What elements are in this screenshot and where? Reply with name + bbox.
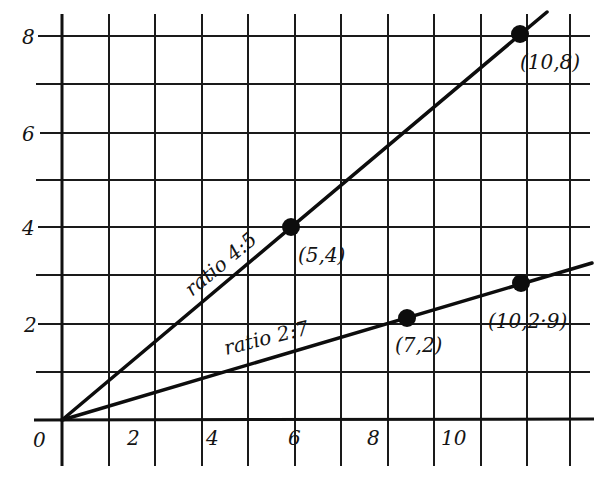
- point-label-10-2-9: (10,2·9): [488, 309, 567, 333]
- ratio-line-chart: 0 2 4 6 8 10 8 6 4 2 ratio 4:5 ratio 2:7…: [0, 0, 602, 477]
- x-tick-10: 10: [441, 426, 467, 450]
- x-tick-6: 6: [288, 426, 301, 450]
- point-label-10-8: (10,8): [520, 50, 580, 74]
- origin-label: 0: [33, 428, 46, 452]
- line-ratio-2-7: [62, 263, 592, 420]
- point-10-2-9: [512, 274, 530, 292]
- x-tick-8: 8: [367, 426, 380, 450]
- y-tick-2: 2: [23, 313, 37, 337]
- point-label-5-4: (5,4): [298, 243, 345, 267]
- point-10-8: [511, 25, 529, 43]
- x-axis: [34, 419, 594, 420]
- x-tick-2: 2: [126, 426, 140, 450]
- point-5-4: [282, 218, 300, 236]
- vertical-gridlines: [109, 14, 570, 466]
- line-label-ratio-2-7: ratio 2:7: [221, 316, 311, 360]
- y-tick-8: 8: [22, 25, 35, 49]
- y-tick-4: 4: [21, 216, 35, 240]
- y-tick-6: 6: [22, 122, 35, 146]
- x-tick-4: 4: [205, 426, 219, 450]
- point-label-7-2: (7,2): [395, 333, 442, 357]
- point-7-2: [398, 309, 416, 327]
- line-ratio-4-5: [62, 12, 547, 420]
